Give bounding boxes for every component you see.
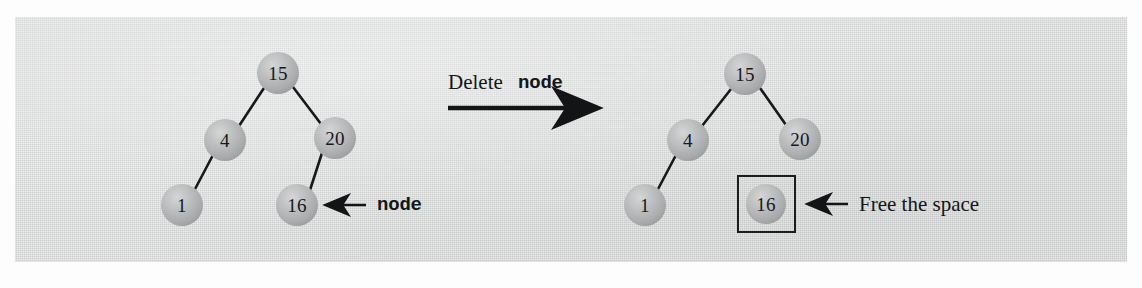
tree-node-20-after-label: 20 (790, 130, 810, 149)
tree-node-4-after-label: 4 (683, 131, 693, 150)
edge-15-4 (239, 88, 264, 126)
tree-node-15-label: 15 (268, 64, 288, 83)
after-caption-label: Free the space (859, 194, 979, 215)
edge-15-4-after (702, 89, 731, 126)
edge-4-1 (194, 155, 213, 191)
figure-canvas: 15 4 20 1 16 node Delete node 15 4 20 1 … (0, 0, 1142, 288)
tree-node-20-label: 20 (325, 129, 345, 148)
tree-node-16-label: 16 (287, 196, 307, 215)
edge-20-16 (310, 153, 322, 190)
tree-node-15-after-label: 15 (735, 65, 755, 84)
tree-node-4-label: 4 (220, 131, 230, 150)
tree-node-1-after-label: 1 (640, 196, 650, 215)
edge-15-20-after (760, 88, 786, 125)
transition-label-code: node (518, 74, 563, 93)
tree-node-16-freed-label: 16 (756, 195, 776, 214)
edge-4-1-after (657, 155, 676, 191)
transition-label-prefix: Delete (448, 72, 503, 93)
edge-15-20 (293, 87, 321, 124)
tree-node-1-label: 1 (177, 196, 187, 215)
figure-vector-layer (0, 0, 1142, 288)
before-caption-label: node (377, 196, 422, 215)
